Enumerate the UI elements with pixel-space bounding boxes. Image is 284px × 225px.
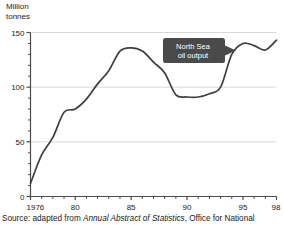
source-prefix: Source: adapted from: [2, 214, 83, 223]
annotation-callout: North Sea oil output: [163, 38, 236, 63]
source-publication-title: Annual Abstract of Statistics: [83, 214, 185, 223]
y-tick-label: 0: [20, 193, 25, 202]
source-suffix: , Office for National: [185, 214, 255, 223]
y-tick-label: 150: [11, 29, 25, 38]
x-tick-label: 90: [183, 203, 192, 211]
callout-label-line1: North Sea: [176, 42, 211, 51]
y-tick-label: 100: [11, 83, 25, 92]
callout-label-line2: oil output: [178, 51, 209, 60]
x-tick-label: 95: [239, 203, 248, 211]
y-tick-label: 50: [16, 138, 25, 147]
x-tick-label: 85: [127, 203, 136, 211]
x-tick-labels: 19768085909598: [27, 203, 282, 211]
gridlines: [31, 33, 277, 142]
source-note: Source: adapted from Annual Abstract of …: [2, 214, 284, 224]
x-tick-label: 80: [71, 203, 80, 211]
callout-pointer-icon: [224, 45, 236, 56]
data-series-line: [31, 40, 277, 183]
chart-figure: Million tonnes 050100150 19768085909598 …: [0, 0, 284, 225]
line-chart-plot: 050100150 19768085909598 North Sea oil o…: [0, 0, 284, 210]
x-tick-label: 98: [272, 203, 281, 211]
x-tick-label: 1976: [27, 203, 45, 211]
y-tick-labels: 050100150: [11, 29, 25, 202]
